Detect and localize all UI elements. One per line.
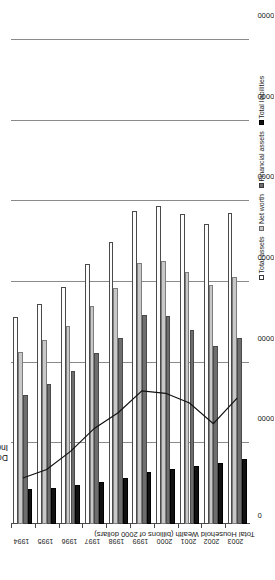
value-axis-tick-label: 60000 (258, 11, 275, 20)
legend-label: Total liabilities (258, 76, 265, 119)
legend-item-total-assets: Total assets (258, 237, 265, 280)
bar-chart-figure: Total Household Wealth (billions of 2000… (0, 0, 274, 580)
bar-2002-total-liabilities (218, 463, 223, 524)
legend-swatch-icon (259, 120, 264, 125)
dow-jones-annotation: Dow Jones Industrial Average (0, 443, 8, 462)
legend-swatch-icon (259, 275, 264, 280)
value-axis-tick-label: 20000 (258, 333, 275, 342)
category-tick (35, 524, 36, 528)
bar-1994-total-liabilities (28, 489, 33, 524)
rotated-figure-container: Total Household Wealth (billions of 2000… (0, 0, 274, 580)
category-tick (106, 524, 107, 528)
category-tick (82, 524, 83, 528)
category-tick (225, 524, 226, 528)
plot-area: 0100002000030000400005000060000199419951… (11, 40, 249, 524)
gridline (11, 39, 249, 40)
bar-1999-total-liabilities (147, 472, 152, 524)
bar-1998-total-liabilities (123, 478, 128, 524)
legend-label: Net worth (258, 194, 265, 224)
legend-swatch-icon (259, 226, 264, 231)
bar-1995-total-liabilities (51, 488, 56, 524)
category-tick (178, 524, 179, 528)
legend-item-financial-assets: Financial assets (258, 131, 265, 188)
legend-item-net-worth: Net worth (258, 194, 265, 230)
chart-legend: Total assetsNet worthFinancial assetsTot… (258, 72, 265, 280)
bar-2001-total-liabilities (194, 466, 199, 524)
legend-label: Total assets (258, 237, 265, 274)
legend-item-total-liabilities: Total liabilities (258, 76, 265, 126)
bar-1997-total-liabilities (99, 482, 104, 524)
category-tick (59, 524, 60, 528)
category-tick (154, 524, 155, 528)
category-tick-label-2003: 2003 (221, 538, 251, 545)
category-tick (130, 524, 131, 528)
gridline (11, 120, 249, 121)
gridline (11, 200, 249, 201)
chart-screenshot: Total Household Wealth (billions of 2000… (0, 0, 274, 580)
value-axis-tick-label: 0 (258, 511, 262, 520)
value-axis-tick-label: 10000 (258, 414, 275, 423)
legend-label: Financial assets (258, 131, 265, 181)
category-tick (11, 524, 12, 528)
bar-2000-total-liabilities (170, 469, 175, 524)
bar-1996-total-liabilities (75, 485, 80, 524)
gridline (11, 281, 249, 282)
category-axis (249, 523, 250, 524)
bar-2003-total-liabilities (242, 459, 247, 524)
category-tick (201, 524, 202, 528)
legend-swatch-icon (259, 183, 264, 188)
